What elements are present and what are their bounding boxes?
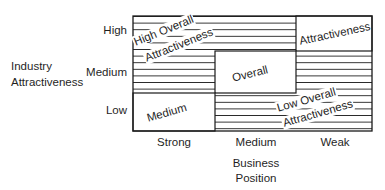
x-axis-title-line2: Position	[226, 172, 286, 185]
x-axis-title-line1: Business	[226, 157, 286, 170]
x-tick-medium: Medium	[231, 136, 281, 149]
x-tick-strong: Strong	[153, 136, 195, 149]
x-tick-weak: Weak	[317, 136, 353, 149]
